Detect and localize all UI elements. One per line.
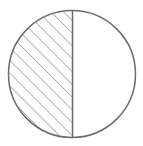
half-shaded-circle-diagram: Circle with left half shaded A circle di… [0, 0, 143, 146]
figure-container: Circle with left half shaded A circle di… [0, 0, 143, 146]
